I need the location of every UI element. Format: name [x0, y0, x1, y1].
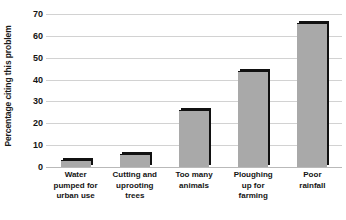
x-axis-tick-label: Waterpumped forurban use — [42, 170, 109, 202]
gridline — [46, 167, 342, 168]
x-axis-tick-label-line: Poor — [279, 170, 346, 181]
x-axis-tick-label-line: farming — [220, 191, 287, 202]
x-axis-tick-label-line: Water — [42, 170, 109, 181]
x-axis-tick-label: Poorrainfall — [279, 170, 346, 191]
bar — [179, 110, 209, 167]
bar — [238, 71, 268, 167]
x-axis-tick-label-line: Cutting and — [101, 170, 168, 181]
y-axis-tick-label: 0 — [3, 163, 43, 172]
x-axis-tick-label-line: pumped for — [42, 181, 109, 192]
y-axis-tick-label: 50 — [3, 53, 43, 62]
y-axis-tick-label: 10 — [3, 141, 43, 150]
y-axis-tick-label: 60 — [3, 31, 43, 40]
y-axis-tick-labels: 706050403020100 — [0, 14, 43, 167]
x-axis-tick-label-line: Ploughing — [220, 170, 287, 181]
x-axis-tick-label: Too manyanimals — [160, 170, 227, 191]
y-axis-tick-label: 20 — [3, 119, 43, 128]
x-axis-tick-label: Cutting anduprootingtrees — [101, 170, 168, 202]
x-axis-tick-label-line: up for — [220, 181, 287, 192]
bars-layer — [46, 14, 342, 167]
bar — [61, 160, 91, 167]
x-axis-tick-label: Ploughingup forfarming — [220, 170, 287, 202]
bar — [120, 154, 150, 167]
y-axis-tick-label: 40 — [3, 75, 43, 84]
x-axis-tick-labels: Waterpumped forurban useCutting anduproo… — [46, 170, 342, 218]
x-axis-tick-label-line: animals — [160, 181, 227, 192]
x-axis-tick-label-line: rainfall — [279, 181, 346, 192]
x-axis-tick-label-line: trees — [101, 191, 168, 202]
y-axis-tick-label: 70 — [3, 10, 43, 19]
y-axis-tick-label: 30 — [3, 97, 43, 106]
x-axis-tick-label-line: Too many — [160, 170, 227, 181]
bar — [297, 23, 327, 167]
x-axis-tick-label-line: urban use — [42, 191, 109, 202]
bar-chart: Percentage citing this problem 706050403… — [0, 0, 346, 220]
x-axis-tick-label-line: uprooting — [101, 181, 168, 192]
